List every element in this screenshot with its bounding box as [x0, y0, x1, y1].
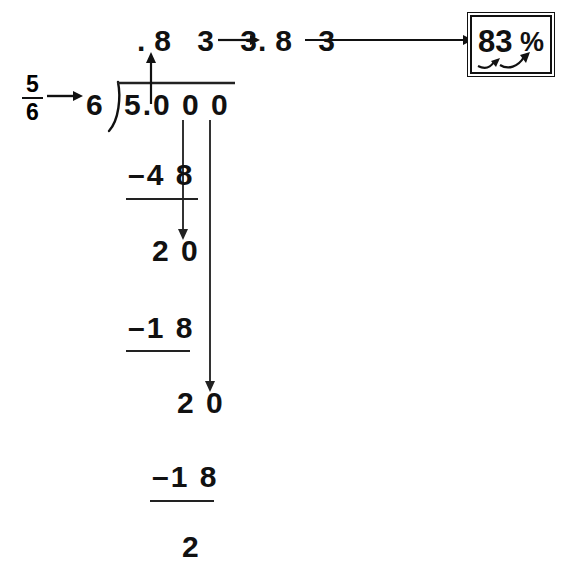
step-2-remainder: 2 0 [177, 388, 225, 418]
step-2-subtrahend: –1 8 [128, 313, 194, 343]
fraction-denominator: 6 [26, 100, 39, 124]
step-3-remainder: 2 [182, 532, 201, 562]
arrow-quotient-up [143, 52, 159, 104]
step-3-rule [150, 500, 214, 502]
arrow-quotient-to-rounded [218, 32, 260, 48]
step-1-rule [126, 198, 198, 200]
dividend: 5.0 0 0 [124, 90, 230, 120]
arrow-rounded-to-answer [305, 32, 473, 48]
arrow-bring-down-second-zero [202, 120, 218, 392]
arrow-fraction-to-divisor [47, 88, 83, 104]
step-1-subtrahend: –4 8 [128, 160, 194, 190]
divisor: 6 [86, 90, 105, 120]
answer-box: 83 % [470, 15, 552, 74]
fraction-numerator: 5 [26, 72, 39, 96]
figure-canvas: 5 6 6 5.0 0 0 .8 3 3 .8 3 [0, 0, 576, 573]
decimal-shift-curved-arrow-icon [476, 50, 538, 70]
step-3-subtrahend: –1 8 [152, 462, 218, 492]
fraction-five-sixths: 5 6 [22, 72, 43, 124]
step-2-rule [126, 350, 190, 352]
step-1-remainder: 2 0 [152, 236, 200, 266]
